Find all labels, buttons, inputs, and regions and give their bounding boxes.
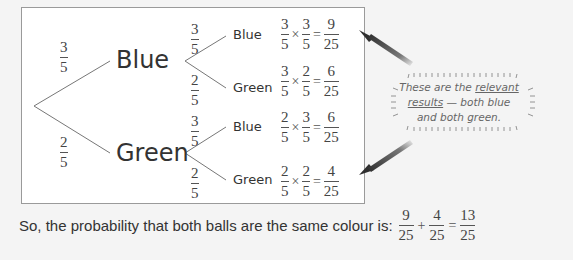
first-blue-label: Blue xyxy=(116,46,169,74)
numerator: 2 xyxy=(60,135,68,150)
summary-text: So, the probability that both balls are … xyxy=(19,217,393,234)
summary-line: So, the probability that both balls are … xyxy=(19,208,475,243)
calc-row: 35 × 25 = 625 xyxy=(281,64,339,99)
summary-result: 1325 xyxy=(460,208,475,243)
outcome-label: Blue xyxy=(233,27,262,42)
denominator: 5 xyxy=(60,155,68,170)
arrow-down-icon xyxy=(359,140,413,175)
outcome-label: Blue xyxy=(233,119,262,134)
branch-prob: 25 xyxy=(191,73,199,108)
branch-prob-blue: 35 xyxy=(60,40,68,75)
calc-row: 25 × 35 = 625 xyxy=(281,110,339,145)
calc-row: 35 × 35 = 925 xyxy=(281,17,339,52)
branch-prob: 35 xyxy=(191,114,199,149)
outcome-label: Green xyxy=(233,172,272,187)
first-green-label: Green xyxy=(116,139,189,167)
branch-prob: 25 xyxy=(191,166,199,201)
outcome-label: Green xyxy=(233,80,272,95)
branch-prob-green: 25 xyxy=(60,135,68,170)
denominator: 5 xyxy=(60,60,68,75)
callout-note: These are the relevant results — both bl… xyxy=(397,80,521,125)
arrow-up-icon xyxy=(359,30,413,66)
branch-prob: 35 xyxy=(191,22,199,57)
calc-row: 25 × 25 = 425 xyxy=(281,164,339,199)
numerator: 3 xyxy=(60,40,68,55)
